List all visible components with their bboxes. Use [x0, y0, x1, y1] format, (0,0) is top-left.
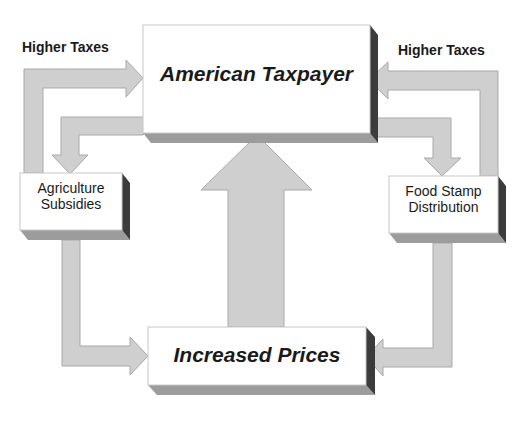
increased-prices-label: Increased Prices: [148, 343, 366, 367]
arrow-foodstamp-to-prices: [366, 243, 452, 376]
agriculture-subsidies-label: Agriculture Subsidies: [20, 180, 122, 212]
american-taxpayer-label: American Taxpayer: [143, 62, 370, 86]
agriculture-line-1: Agriculture: [20, 180, 122, 196]
food-stamp-distribution-label: Food Stamp Distribution: [389, 183, 498, 215]
arrow-taxpayer-to-agriculture: [52, 117, 153, 174]
foodstamp-line-1: Food Stamp: [389, 183, 498, 199]
foodstamp-line-2: Distribution: [389, 199, 498, 215]
arrow-prices-to-taxpayer: [201, 135, 312, 327]
higher-taxes-left-label: Higher Taxes: [22, 39, 132, 55]
higher-taxes-right-label: Higher Taxes: [398, 42, 508, 58]
agriculture-line-2: Subsidies: [20, 196, 122, 212]
arrow-agriculture-to-prices: [62, 240, 148, 375]
